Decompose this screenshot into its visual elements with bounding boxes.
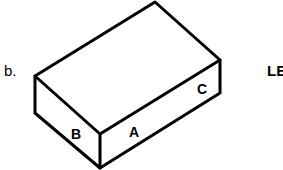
prism-top-face — [35, 2, 220, 134]
face-label-a: A — [129, 124, 139, 140]
prism-left-face — [35, 76, 100, 168]
side-label: LE — [267, 62, 283, 79]
prism-front-face — [100, 60, 220, 168]
rectangular-prism-diagram — [0, 0, 283, 170]
face-label-b: B — [71, 126, 81, 142]
face-label-c: C — [197, 81, 207, 97]
item-label: b. — [4, 62, 17, 79]
